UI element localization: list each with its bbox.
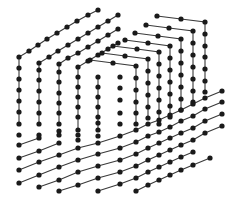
lattice-dot — [190, 40, 195, 45]
lattice-dot — [75, 64, 80, 69]
lattice-dot — [65, 55, 70, 60]
lattice-dot — [190, 28, 195, 33]
lattice-dot — [156, 109, 161, 114]
lattice-dot — [178, 48, 183, 53]
lattice-dot — [190, 76, 195, 81]
lattice-dot — [117, 133, 122, 138]
lattice-dot — [16, 142, 21, 147]
lattice-dot — [75, 127, 80, 132]
lattice-dot — [95, 163, 100, 168]
lattice-dot — [167, 159, 172, 164]
lattice-dot — [56, 69, 61, 74]
lattice-dot — [178, 167, 183, 172]
lattice-dot — [156, 140, 161, 145]
lattice-dot — [75, 169, 80, 174]
lattice-dot — [202, 31, 207, 36]
lattice-dot — [145, 169, 150, 174]
lattice-dot — [16, 167, 21, 172]
lattice-dot — [110, 60, 115, 65]
lattice-dot — [133, 188, 138, 193]
lattice-dot — [167, 91, 172, 96]
lattice-dot — [95, 175, 100, 180]
lattice-dot — [85, 30, 90, 35]
lattice-dot — [202, 78, 207, 83]
lattice-dot — [56, 152, 61, 157]
lattice-dot — [56, 90, 61, 95]
lattice-dot — [36, 67, 41, 72]
lattice-dot — [154, 13, 159, 18]
lattice-dot — [95, 188, 100, 193]
lattice-dot — [64, 24, 69, 29]
lattice-dot — [156, 49, 161, 54]
lattice-dot — [122, 37, 127, 42]
lattice-dot — [75, 36, 80, 41]
lattice-dot — [75, 74, 80, 79]
lattice-loose-dot — [36, 132, 41, 137]
lattice-dot — [178, 96, 183, 101]
lattice-dot — [75, 50, 80, 55]
lattice-dot — [56, 121, 61, 126]
lattice-dot — [145, 92, 150, 97]
lattice-dot — [167, 147, 172, 152]
lattice-svg — [0, 0, 239, 197]
lattice-dot — [117, 145, 122, 150]
lattice-dot — [54, 30, 59, 35]
lattice-dot — [133, 75, 138, 80]
lattice-dot — [190, 88, 195, 93]
lattice-dot — [202, 43, 207, 48]
lattice-dot — [178, 142, 183, 147]
lattice-dot — [202, 130, 207, 135]
lattice-dot — [143, 22, 148, 27]
back-7-line — [90, 60, 136, 124]
lattice-dot — [56, 177, 61, 182]
lattice-dot — [36, 77, 41, 82]
lattice-dot — [156, 129, 161, 134]
lattice-dot — [166, 25, 171, 30]
lattice-dot — [95, 7, 100, 12]
lattice-dot — [133, 99, 138, 104]
lattice-dot — [99, 50, 104, 55]
lattice-dot — [105, 32, 110, 37]
lattice-dot — [75, 114, 80, 119]
lattice-dot — [95, 24, 100, 29]
lattice-dot — [36, 121, 41, 126]
lattice-loose-dot — [117, 85, 122, 90]
lattice-dot — [145, 40, 150, 45]
lattice-dot — [145, 115, 150, 120]
lattice-dot — [16, 87, 21, 92]
lattice-dot — [202, 89, 207, 94]
lattice-dot — [219, 88, 224, 93]
lattice-dot — [36, 172, 41, 177]
lattice-dot — [145, 145, 150, 150]
lattice-dot — [156, 152, 161, 157]
lattice-dot — [56, 188, 61, 193]
lattice-dot — [133, 175, 138, 180]
lattice-dot — [85, 44, 90, 49]
lattice-dot — [178, 84, 183, 89]
lattice-dot — [75, 94, 80, 99]
lattice-loose-dot — [117, 97, 122, 102]
lattice-dot — [133, 139, 138, 144]
lattice-loose-dot — [117, 121, 122, 126]
lattice-dot — [95, 94, 100, 99]
lattice-dot — [36, 148, 41, 153]
lattice-dot — [95, 84, 100, 89]
lattice-dot — [178, 130, 183, 135]
lattice-dot — [74, 18, 79, 23]
lattice-dot — [65, 42, 70, 47]
lattice-dot — [178, 36, 183, 41]
lattice-dot — [36, 60, 41, 65]
lattice-dot — [219, 99, 224, 104]
lattice-dot — [167, 55, 172, 60]
lattice-dot — [145, 121, 150, 126]
lattice-dot — [115, 40, 120, 45]
lattice-dot — [105, 46, 110, 51]
lattice-dot — [133, 110, 138, 115]
lattice-dot — [56, 140, 61, 145]
lattice-dot — [190, 137, 195, 142]
lattice-dot — [167, 67, 172, 72]
lattice-dot — [16, 109, 21, 114]
lattice-dot — [56, 100, 61, 105]
lattice-dot — [202, 19, 207, 24]
lattice-dot — [133, 127, 138, 132]
